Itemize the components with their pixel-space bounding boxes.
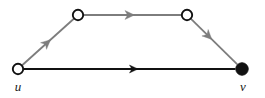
node-label-u: u xyxy=(15,79,22,94)
node-label-v: v xyxy=(240,79,246,94)
node-labels-layer: uv xyxy=(15,79,246,94)
node-w1[interactable] xyxy=(73,10,83,20)
directed-graph-figure: uv xyxy=(0,0,265,98)
edge-w2-v xyxy=(191,19,237,64)
edges-layer xyxy=(22,15,237,69)
node-u[interactable] xyxy=(13,64,23,74)
node-w2[interactable] xyxy=(182,10,192,20)
node-v[interactable] xyxy=(236,63,248,75)
graph-canvas: uv xyxy=(0,0,265,98)
